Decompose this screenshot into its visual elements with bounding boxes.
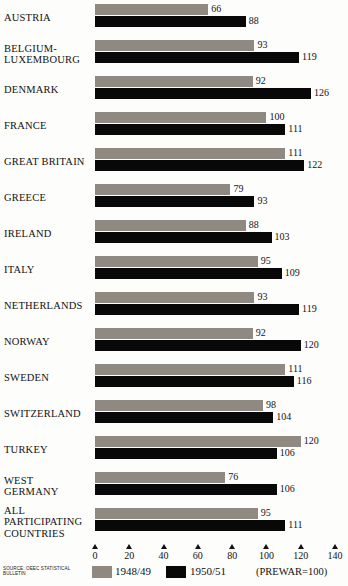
bar-value-label: 98 bbox=[266, 399, 276, 411]
bar-value-label: 122 bbox=[307, 159, 322, 171]
bar-value-label: 111 bbox=[288, 363, 302, 375]
axis-tick-label: 80 bbox=[227, 550, 237, 562]
bar-1950-51 bbox=[95, 520, 285, 531]
category-label: ITALY bbox=[4, 252, 92, 288]
bar-track: 104 bbox=[95, 412, 348, 423]
bar-1950-51 bbox=[95, 196, 254, 207]
chart-row: NORWAY92120 bbox=[0, 324, 348, 360]
bar-1948-49 bbox=[95, 184, 230, 195]
legend-label-1950-51: 1950/51 bbox=[190, 565, 226, 578]
bar-track: 126 bbox=[95, 88, 348, 99]
chart-row: GREECE7993 bbox=[0, 180, 348, 216]
axis-tick-mark bbox=[229, 544, 235, 549]
category-label: IRELAND bbox=[4, 216, 92, 252]
bar-group: 98104 bbox=[95, 396, 348, 432]
bar-value-label: 103 bbox=[275, 231, 290, 243]
chart-footer: SOURCE: OEEC STATISTICAL BULLETIN 1948/4… bbox=[0, 564, 348, 586]
bar-1948-49 bbox=[95, 472, 225, 483]
bar-group: 111122 bbox=[95, 144, 348, 180]
bar-value-label: 100 bbox=[269, 111, 284, 123]
bar-1950-51 bbox=[95, 232, 272, 243]
bar-value-label: 120 bbox=[304, 435, 319, 447]
bar-group: 76106 bbox=[95, 468, 348, 504]
source-note: SOURCE: OEEC STATISTICAL BULLETIN bbox=[3, 566, 89, 577]
bar-group: 6688 bbox=[95, 0, 348, 36]
bar-track: 109 bbox=[95, 268, 348, 279]
category-label: WEST GERMANY bbox=[4, 468, 92, 504]
bar-track: 106 bbox=[95, 448, 348, 459]
bar-value-label: 93 bbox=[257, 39, 267, 51]
bar-value-label: 92 bbox=[256, 327, 266, 339]
chart-row: ALL PARTICIPATING COUNTRIES95111 bbox=[0, 504, 348, 540]
chart-row: DENMARK92126 bbox=[0, 72, 348, 108]
chart-row: GREAT BRITAIN111122 bbox=[0, 144, 348, 180]
bar-1948-49 bbox=[95, 292, 254, 303]
bar-1948-49 bbox=[95, 256, 258, 267]
legend-label-1948-49: 1948/49 bbox=[115, 565, 151, 578]
chart-row: FRANCE100111 bbox=[0, 108, 348, 144]
category-label: NORWAY bbox=[4, 324, 92, 360]
category-label: GREAT BRITAIN bbox=[4, 144, 92, 180]
chart-row: SWEDEN111116 bbox=[0, 360, 348, 396]
bar-track: 92 bbox=[95, 76, 348, 87]
bar-1948-49 bbox=[95, 220, 246, 231]
bar-group: 92126 bbox=[95, 72, 348, 108]
bar-group: 111116 bbox=[95, 360, 348, 396]
bar-value-label: 93 bbox=[257, 195, 267, 207]
category-label: SWEDEN bbox=[4, 360, 92, 396]
chart-row: ITALY95109 bbox=[0, 252, 348, 288]
category-label: SWITZERLAND bbox=[4, 396, 92, 432]
axis-tick-label: 0 bbox=[93, 550, 98, 562]
axis-tick-mark bbox=[126, 544, 132, 549]
bar-1948-49 bbox=[95, 112, 266, 123]
prewar-baseline-note: (PREWAR=100) bbox=[256, 565, 327, 578]
bar-value-label: 126 bbox=[314, 87, 329, 99]
bar-1950-51 bbox=[95, 52, 299, 63]
bar-1950-51 bbox=[95, 304, 299, 315]
bar-track: 119 bbox=[95, 52, 348, 63]
bar-value-label: 111 bbox=[288, 147, 302, 159]
bar-track: 111 bbox=[95, 148, 348, 159]
chart-row: SWITZERLAND98104 bbox=[0, 396, 348, 432]
bar-track: 88 bbox=[95, 16, 348, 27]
bar-group: 93119 bbox=[95, 36, 348, 72]
bar-track: 93 bbox=[95, 196, 348, 207]
chart-row: WEST GERMANY76106 bbox=[0, 468, 348, 504]
category-label: NETHERLANDS bbox=[4, 288, 92, 324]
chart-row: NETHERLANDS93119 bbox=[0, 288, 348, 324]
bar-value-label: 111 bbox=[288, 123, 302, 135]
bar-track: 76 bbox=[95, 472, 348, 483]
bar-1950-51 bbox=[95, 376, 294, 387]
bar-group: 93119 bbox=[95, 288, 348, 324]
bar-track: 106 bbox=[95, 484, 348, 495]
bar-value-label: 111 bbox=[288, 519, 302, 531]
bar-track: 119 bbox=[95, 304, 348, 315]
bar-track: 98 bbox=[95, 400, 348, 411]
category-label: AUSTRIA bbox=[4, 0, 92, 36]
bar-track: 100 bbox=[95, 112, 348, 123]
bar-track: 66 bbox=[95, 4, 348, 15]
bar-1950-51 bbox=[95, 124, 285, 135]
bar-1948-49 bbox=[95, 4, 208, 15]
bar-value-label: 88 bbox=[249, 219, 259, 231]
axis-tick-label: 140 bbox=[328, 550, 343, 562]
bar-value-label: 92 bbox=[256, 75, 266, 87]
bar-1948-49 bbox=[95, 40, 254, 51]
bar-track: 92 bbox=[95, 328, 348, 339]
bar-1948-49 bbox=[95, 148, 285, 159]
axis-tick-label: 20 bbox=[124, 550, 134, 562]
bar-track: 111 bbox=[95, 124, 348, 135]
bar-1950-51 bbox=[95, 484, 277, 495]
x-axis: 020406080100120140 bbox=[95, 544, 348, 566]
bar-track: 79 bbox=[95, 184, 348, 195]
bar-1948-49 bbox=[95, 328, 253, 339]
bar-track: 116 bbox=[95, 376, 348, 387]
bar-1948-49 bbox=[95, 364, 285, 375]
bar-value-label: 95 bbox=[261, 255, 271, 267]
bar-value-label: 88 bbox=[249, 15, 259, 27]
bar-track: 122 bbox=[95, 160, 348, 171]
axis-tick-mark bbox=[195, 544, 201, 549]
axis-tick-mark bbox=[92, 544, 98, 549]
bar-value-label: 95 bbox=[261, 507, 271, 519]
bar-group: 88103 bbox=[95, 216, 348, 252]
